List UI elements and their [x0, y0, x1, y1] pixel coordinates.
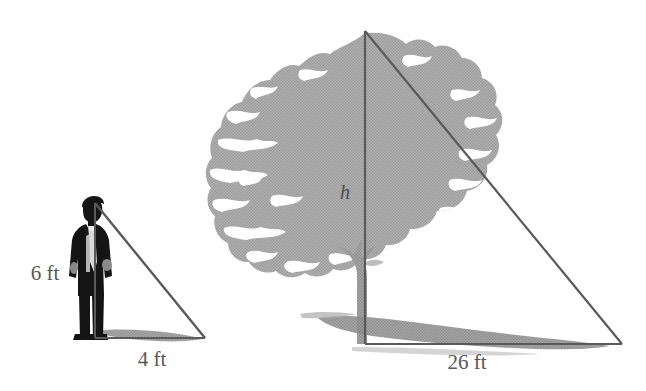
trunk-knot — [366, 260, 384, 266]
man-shadow-label: 4 ft — [138, 347, 167, 371]
man-figure: 6 ft 4 ft — [31, 196, 205, 371]
tree-shadow — [300, 312, 610, 355]
tree-height-label: h — [340, 181, 350, 203]
similar-triangles-figure: h 26 ft — [0, 0, 646, 391]
man-leg-left — [79, 294, 90, 338]
man-shirt-front — [86, 234, 90, 272]
tree-figure: h 26 ft — [206, 31, 622, 374]
man-height-label: 6 ft — [31, 261, 60, 285]
man-shadow-mass — [96, 330, 202, 342]
tree-shadow-fringe — [352, 347, 540, 355]
tree-canopy — [206, 33, 502, 278]
man-shadow — [96, 330, 202, 342]
man-leg-right — [92, 294, 104, 338]
figure-canvas: h 26 ft — [0, 0, 646, 391]
canopy-mass — [206, 33, 502, 278]
tree-shadow-label: 26 ft — [447, 350, 486, 374]
man-hand-left — [70, 262, 78, 274]
man-shoe-left — [73, 334, 92, 340]
man-hand-right — [102, 259, 112, 271]
